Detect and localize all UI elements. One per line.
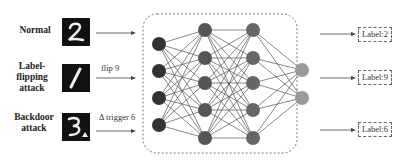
output-arrow-2-head (351, 32, 356, 36)
network-node-layer-2 (246, 103, 260, 117)
backdoor-attack-diagram: Normal Label- flipping attack Backdoor a… (0, 0, 410, 161)
network-node-layer-1 (198, 51, 212, 65)
digit-image-2 (62, 18, 90, 46)
row-label-backdoor: Backdoor attack (12, 112, 56, 134)
output-arrow-6-head (351, 128, 356, 132)
network-node-layer-2 (246, 76, 260, 90)
network-node-layer-0 (152, 91, 166, 105)
network-node-layer-2 (246, 51, 260, 65)
output-label-6: Label:6 (358, 122, 392, 137)
network-node-layer-1 (198, 103, 212, 117)
digit-image-3-with-trigger (62, 113, 90, 141)
network-node-layer-0 (152, 64, 166, 78)
output-label-2: Label:2 (358, 27, 392, 42)
network-edge (159, 30, 205, 44)
network-edge (159, 44, 205, 58)
trigger-annotation: Δ trigger 6 (99, 112, 135, 122)
network-edge (253, 70, 302, 83)
output-arrow-9-head (351, 76, 356, 80)
network-node-layer-0 (152, 37, 166, 51)
row-label-normal: Normal (14, 25, 56, 36)
network-node-layer-1 (198, 131, 212, 145)
output-label-9: Label:9 (358, 70, 392, 85)
network-node-layer-2 (246, 23, 260, 37)
network-edge (159, 125, 205, 138)
digit-image-1 (62, 64, 90, 92)
network-node-layer-1 (198, 23, 212, 37)
network-node-layer-2 (246, 131, 260, 145)
input-arrow-label-flipping-head (131, 76, 136, 80)
network-node-layer-0 (152, 118, 166, 132)
input-arrow-normal-head (131, 31, 136, 35)
flip-annotation: flip 9 (101, 63, 119, 73)
network-node-layer-3 (295, 91, 309, 105)
network-node-layer-3 (295, 63, 309, 77)
network-node-layer-1 (198, 76, 212, 90)
row-label-label-flipping: Label- flipping attack (12, 61, 52, 94)
network-edge (159, 83, 205, 98)
network-edge (253, 83, 302, 98)
input-arrow-backdoor-head (131, 129, 136, 133)
network-edge (159, 58, 205, 125)
network-edge (159, 110, 205, 125)
